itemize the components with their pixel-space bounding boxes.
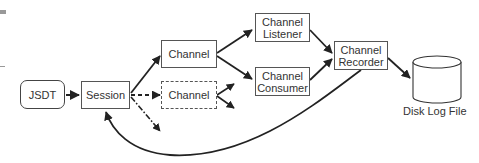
node-channel-listener-line2: Listener — [263, 28, 302, 40]
disk-cylinder-icon — [413, 56, 461, 103]
node-disk-log-file-label: Disk Log File — [403, 105, 467, 117]
edge-channel-consumer — [217, 56, 252, 79]
node-channel-dashed: Channel — [161, 81, 217, 109]
edge-dashed-channel-down — [217, 96, 234, 108]
edge-consumer-recorder — [310, 59, 332, 80]
diagram-canvas: JSDT Session Channel Channel Channel Lis… — [0, 0, 479, 163]
node-jsdt: JSDT — [20, 80, 65, 109]
edge-channel-listener — [217, 30, 252, 53]
node-channel-consumer-line1: Channel — [262, 70, 303, 82]
node-channel-consumer-line2: Consumer — [257, 82, 308, 94]
node-channel-recorder: Channel Recorder — [334, 41, 388, 70]
node-session: Session — [81, 81, 130, 109]
node-channel-recorder-line2: Recorder — [338, 56, 383, 68]
node-jsdt-label: JSDT — [29, 89, 57, 101]
edge-dashed-channel-up — [217, 84, 234, 95]
node-channel-listener: Channel Listener — [255, 13, 310, 42]
node-channel-listener-line1: Channel — [262, 16, 303, 28]
node-channel-consumer: Channel Consumer — [255, 67, 310, 96]
node-session-label: Session — [86, 89, 125, 101]
node-channel-label: Channel — [169, 48, 210, 60]
edge-listener-recorder — [310, 30, 332, 53]
connector-layer — [0, 0, 479, 163]
edge-session-dashdot — [131, 97, 160, 131]
node-channel-dashed-label: Channel — [169, 89, 210, 101]
edge-recorder-disk — [388, 58, 410, 78]
node-channel-recorder-line1: Channel — [341, 44, 382, 56]
node-channel: Channel — [161, 40, 217, 68]
edge-session-channel — [131, 56, 160, 93]
